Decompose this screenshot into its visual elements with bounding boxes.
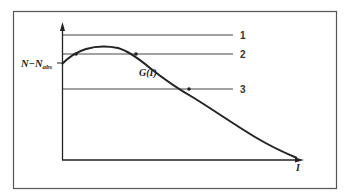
intersection-point-3 (187, 87, 191, 91)
intersection-point-2-left (74, 52, 78, 56)
curve-label: G(I) (139, 67, 157, 79)
x-axis-label: I (295, 162, 301, 173)
diagram-canvas: N−Nabs G(I) I 1 2 3 (0, 0, 347, 196)
y-axis-arrow-icon (60, 22, 65, 31)
reference-line-3-label: 3 (240, 84, 246, 95)
gain-curve (62, 47, 297, 158)
intersection-point-2-right (134, 52, 138, 56)
reference-line-1-label: 1 (240, 30, 246, 41)
reference-line-2-label: 2 (240, 49, 246, 60)
y-axis-label: N−Nabs (20, 58, 53, 71)
